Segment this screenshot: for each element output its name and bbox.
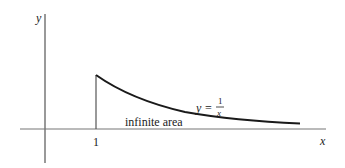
x-axis-label: x bbox=[319, 134, 326, 148]
x-tick-label-1: 1 bbox=[93, 135, 99, 149]
equation-numerator: 1 bbox=[218, 96, 223, 106]
equation-lhs: y = bbox=[195, 101, 212, 115]
diagram-canvas: y x 1 infinite area y = 1 x bbox=[0, 0, 345, 168]
y-axis-label: y bbox=[35, 11, 42, 25]
equation-denominator: x bbox=[216, 108, 221, 118]
curve-equation-label: y = 1 x bbox=[195, 96, 224, 118]
infinite-area-label: infinite area bbox=[125, 115, 183, 129]
